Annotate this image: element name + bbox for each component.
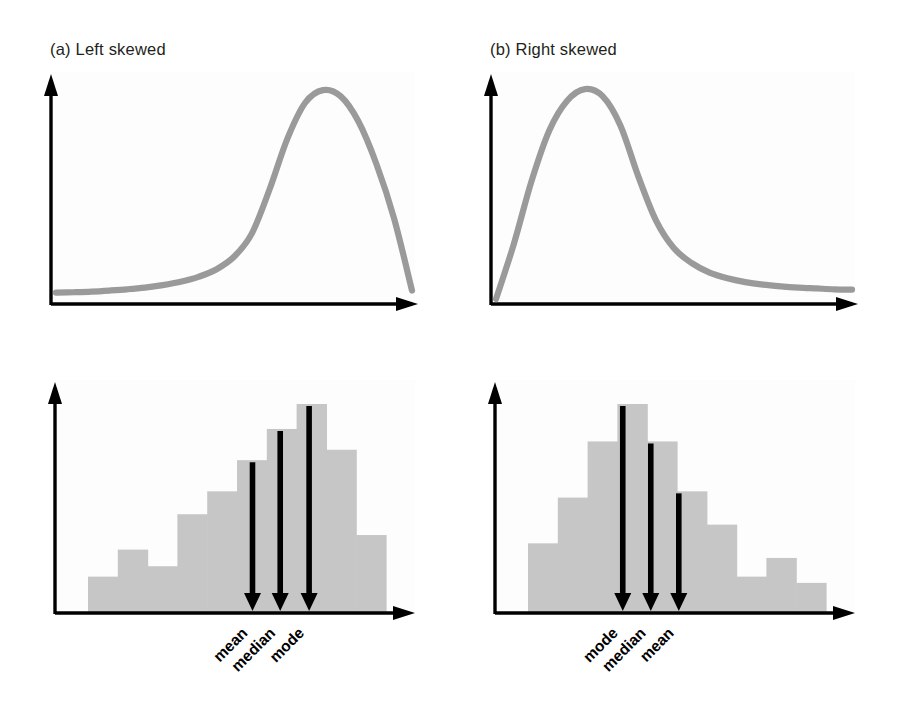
histogram-bar xyxy=(588,441,618,612)
histogram-bar xyxy=(796,583,826,612)
skewness-figure: (a) Left skewed (b) Right skewed xyxy=(0,0,901,717)
histogram-bar xyxy=(528,543,558,612)
left-skewed-histogram-plot: meanmedianmode xyxy=(0,340,450,717)
panel-right-skewed-histogram: modemedianmean xyxy=(440,340,901,717)
histogram-bar xyxy=(118,550,148,612)
histogram-bar xyxy=(356,535,386,612)
histogram-bar xyxy=(326,450,356,612)
plot-area-background xyxy=(52,72,415,305)
histogram-bar xyxy=(148,566,178,612)
panel-right-skewed-density: (b) Right skewed xyxy=(440,0,901,340)
panel-left-skewed-histogram: meanmedianmode xyxy=(0,340,450,717)
histogram-bar xyxy=(207,491,237,612)
statistic-marker-labels: modemedianmean xyxy=(580,624,677,675)
left-skewed-density-plot xyxy=(0,0,450,340)
histogram-bar xyxy=(177,514,207,612)
histogram-bar xyxy=(88,577,118,612)
histogram-bar xyxy=(737,577,767,612)
histogram-bar xyxy=(558,498,588,612)
plot-area-background xyxy=(492,72,855,305)
right-skewed-density-plot xyxy=(440,0,901,340)
statistic-marker-labels: meanmedianmode xyxy=(210,624,308,675)
panel-left-skewed-density: (a) Left skewed xyxy=(0,0,450,340)
histogram-bar xyxy=(707,525,737,612)
histogram-bar xyxy=(766,558,796,612)
right-skewed-histogram-plot: modemedianmean xyxy=(440,340,901,717)
